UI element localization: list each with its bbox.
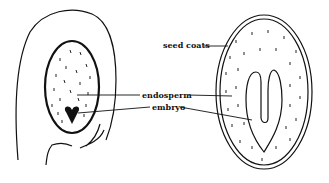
endosperm-label: endosperm bbox=[142, 90, 192, 100]
embryo-leader-right bbox=[180, 107, 252, 120]
seed-coats-label: seed coats bbox=[163, 40, 210, 50]
left-seed-figure bbox=[16, 10, 116, 165]
embryo-label: embryo bbox=[152, 102, 185, 112]
inner-seed-coat bbox=[220, 19, 308, 165]
outer-seed-coat bbox=[216, 15, 312, 169]
embryo-outline bbox=[246, 70, 282, 152]
right-seed-figure bbox=[216, 15, 312, 169]
endosperm-dots-right bbox=[226, 30, 300, 161]
outer-fruit-wall bbox=[16, 10, 116, 160]
endosperm-leader-right bbox=[188, 95, 232, 96]
fruit-base-left bbox=[46, 143, 72, 165]
embryo-shape bbox=[65, 106, 79, 124]
